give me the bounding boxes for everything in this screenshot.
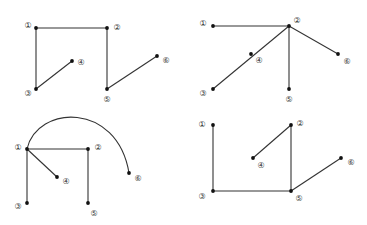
vertex-label: ②	[94, 143, 101, 152]
vertex-label: ④	[257, 161, 264, 170]
vertex-label: ⑤	[103, 95, 110, 104]
vertex-label: ③	[24, 89, 31, 98]
vertex-dot	[34, 87, 38, 91]
diagram-canvas: ①②③④⑤⑥ ①②③④⑤⑥ ①②③④⑤⑥ ①②③④⑤⑥	[0, 0, 367, 225]
vertex-dot	[289, 123, 293, 127]
graph-panel-top-right: ①②③④⑤⑥	[199, 16, 350, 104]
vertex-label: ①	[198, 120, 205, 129]
vertex-label: ③	[14, 202, 21, 211]
vertex-label: ④	[77, 58, 84, 67]
vertex-dot	[105, 26, 109, 30]
vertex-dot	[70, 59, 74, 63]
vertex-dot	[127, 171, 131, 175]
vertex-label: ④	[255, 56, 262, 65]
vertex-dot	[25, 147, 29, 151]
edge-4	[107, 56, 157, 89]
vertex-label: ⑥	[347, 158, 354, 167]
vertex-label: ②	[296, 119, 303, 128]
vertex-label: ③	[198, 192, 205, 201]
vertex-dot	[211, 87, 215, 91]
graph-panel-top-left: ①②③④⑤⑥	[24, 21, 169, 104]
vertex-dot	[211, 24, 215, 28]
vertex-label: ①	[24, 21, 31, 30]
vertex-label: ⑥	[343, 57, 350, 66]
graph-panel-bottom-left: ①②③④⑤⑥	[14, 117, 141, 217]
edge-2	[36, 61, 72, 89]
vertex-label: ③	[199, 89, 206, 98]
curved-edge-0	[27, 117, 129, 173]
vertex-dot	[249, 52, 253, 56]
vertex-dot	[287, 87, 291, 91]
vertex-label: ②	[293, 16, 300, 25]
vertex-label: ⑥	[162, 56, 169, 65]
vertex-dot	[34, 26, 38, 30]
vertex-dot	[289, 189, 293, 193]
vertex-dot	[336, 52, 340, 56]
edge-2	[253, 125, 291, 158]
edge-3	[289, 26, 338, 54]
vertex-dot	[86, 147, 90, 151]
vertex-label: ②	[113, 23, 120, 32]
vertex-label: ⑤	[90, 209, 97, 218]
vertex-dot	[339, 156, 343, 160]
vertex-dot	[251, 156, 255, 160]
vertex-dot	[55, 175, 59, 179]
vertex-label: ①	[14, 143, 21, 152]
vertex-dot	[211, 189, 215, 193]
vertex-label: ①	[199, 19, 206, 28]
edge-2	[27, 149, 57, 177]
vertex-dot	[25, 201, 29, 205]
graph-panel-bottom-right: ①②③④⑤⑥	[198, 119, 354, 203]
vertex-label: ④	[62, 177, 69, 186]
vertex-dot	[86, 201, 90, 205]
vertex-dot	[105, 87, 109, 91]
vertex-label: ⑥	[134, 174, 141, 183]
vertex-dot	[287, 24, 291, 28]
vertex-label: ⑤	[285, 95, 292, 104]
vertex-dot	[211, 123, 215, 127]
edge-4	[291, 158, 341, 191]
edge-1	[213, 26, 289, 89]
vertex-dot	[155, 54, 159, 58]
vertex-label: ⑤	[295, 194, 302, 203]
